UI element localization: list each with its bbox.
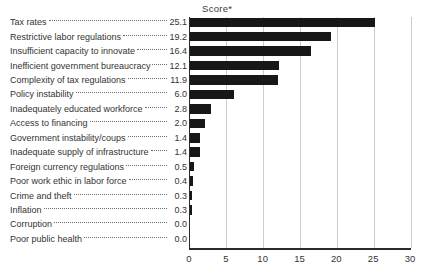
category-label: Insufficient capacity to innovate — [10, 46, 135, 56]
label-row: Policy instability6.0 — [10, 89, 187, 100]
x-axis-tick-label: 10 — [252, 253, 274, 264]
bar — [190, 205, 192, 215]
bar — [190, 104, 211, 114]
dot-leader — [126, 165, 167, 166]
dot-leader — [54, 222, 167, 223]
x-axis-tick-label: 30 — [399, 253, 421, 264]
value-label: 0.0 — [169, 234, 187, 244]
dot-leader — [123, 35, 167, 36]
x-axis-tick-label: 20 — [325, 253, 347, 264]
value-label: 0.3 — [169, 205, 187, 215]
gridline — [337, 17, 338, 248]
bar — [190, 147, 200, 157]
bar — [190, 90, 234, 100]
label-row: Complexity of tax regulations11.9 — [10, 75, 187, 86]
x-axis-tick-label: 5 — [215, 253, 237, 264]
category-label: Access to financing — [10, 118, 88, 128]
dot-leader — [74, 194, 167, 195]
label-row: Inadequately educated workforce2.8 — [10, 104, 187, 115]
value-label: 16.4 — [169, 46, 187, 56]
category-label: Restrictive labor regulations — [10, 32, 121, 42]
label-row: Inadequate supply of infrastructure1.4 — [10, 147, 187, 158]
plot-area — [189, 17, 411, 250]
category-label: Foreign currency regulations — [10, 162, 124, 172]
value-label: 2.0 — [169, 118, 187, 128]
category-label: Inflation — [10, 205, 42, 215]
dot-leader — [49, 20, 167, 21]
category-label: Tax rates — [10, 17, 47, 27]
bar — [190, 119, 205, 129]
label-row: Corruption0.0 — [10, 219, 187, 230]
value-label: 2.8 — [169, 104, 187, 114]
bar — [190, 133, 200, 143]
dot-leader — [151, 150, 167, 151]
label-row: Foreign currency regulations0.5 — [10, 161, 187, 172]
dot-leader — [44, 208, 167, 209]
bar — [190, 191, 192, 201]
value-label: 0.0 — [169, 219, 187, 229]
bar-chart: Score* Tax rates25.1Restrictive labor re… — [0, 0, 424, 277]
label-row: Crime and theft0.3 — [10, 190, 187, 201]
dot-leader — [90, 121, 167, 122]
gridline — [411, 17, 412, 248]
value-label: 1.4 — [169, 133, 187, 143]
label-row: Government instability/coups1.4 — [10, 133, 187, 144]
bar — [190, 75, 278, 85]
label-row: Insufficient capacity to innovate16.4 — [10, 46, 187, 57]
label-row: Inflation0.3 — [10, 205, 187, 216]
value-label: 6.0 — [169, 89, 187, 99]
dot-leader — [76, 92, 167, 93]
value-label: 1.4 — [169, 147, 187, 157]
x-axis-tick-label: 25 — [362, 253, 384, 264]
dot-leader — [128, 136, 167, 137]
label-row: Inefficient government bureaucracy12.1 — [10, 60, 187, 71]
value-label: 11.9 — [169, 75, 187, 85]
x-axis-tick-label: 0 — [178, 253, 200, 264]
category-label: Crime and theft — [10, 191, 72, 201]
gridline — [374, 17, 375, 248]
category-label: Poor work ethic in labor force — [10, 176, 127, 186]
category-label: Corruption — [10, 219, 52, 229]
bar — [190, 46, 311, 56]
category-label: Inadequate supply of infrastructure — [10, 147, 149, 157]
value-label: 0.4 — [169, 176, 187, 186]
label-row: Restrictive labor regulations19.2 — [10, 31, 187, 42]
dot-leader — [137, 49, 167, 50]
category-label: Policy instability — [10, 89, 74, 99]
dot-leader — [128, 78, 167, 79]
dot-leader — [152, 64, 167, 65]
label-row: Poor work ethic in labor force0.4 — [10, 176, 187, 187]
category-label: Complexity of tax regulations — [10, 75, 126, 85]
value-label: 25.1 — [169, 17, 187, 27]
value-label: 0.3 — [169, 191, 187, 201]
bar — [190, 176, 193, 186]
category-label: Poor public health — [10, 234, 82, 244]
bar — [190, 61, 279, 71]
label-row: Access to financing2.0 — [10, 118, 187, 129]
dot-leader — [129, 179, 167, 180]
label-row: Poor public health0.0 — [10, 234, 187, 245]
dot-leader — [84, 237, 167, 238]
bar — [190, 18, 375, 28]
label-row: Tax rates25.1 — [10, 17, 187, 28]
bar — [190, 32, 331, 42]
value-label: 0.5 — [169, 162, 187, 172]
bar — [190, 162, 194, 172]
category-label: Inadequately educated workforce — [10, 104, 143, 114]
dot-leader — [145, 107, 167, 108]
category-label: Government instability/coups — [10, 133, 126, 143]
chart-title: Score* — [202, 3, 232, 14]
value-label: 19.2 — [169, 32, 187, 42]
x-axis-tick-label: 15 — [289, 253, 311, 264]
value-label: 12.1 — [169, 61, 187, 71]
category-label: Inefficient government bureaucracy — [10, 61, 150, 71]
